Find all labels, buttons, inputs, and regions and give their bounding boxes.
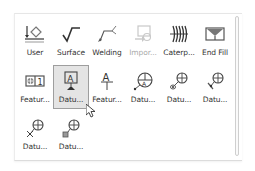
palette-item-datum-target[interactable]: A Datu... (125, 65, 161, 109)
import-icon (133, 24, 153, 44)
feature-control-frame-icon: 1 (25, 71, 45, 91)
datum-target-icon: A (133, 71, 153, 91)
surface-finish-icon (61, 24, 81, 44)
svg-text:A: A (67, 74, 74, 84)
annotation-symbol-palette: User Surface Welding (14, 13, 242, 161)
palette-item-datum-feature[interactable]: A Datu... (53, 65, 89, 109)
palette-item-label: End Fill (197, 48, 233, 57)
scrollbar-thumb[interactable] (235, 16, 239, 156)
svg-text:A: A (103, 72, 110, 83)
datum-target-square-icon (61, 118, 81, 138)
palette-item-welding[interactable]: Welding (89, 18, 125, 62)
user-symbol-icon (25, 24, 45, 44)
palette-item-label: Caterp... (161, 48, 197, 57)
palette-item-datum-target-square[interactable]: Datu... (53, 112, 89, 156)
end-fill-icon (205, 24, 225, 44)
vertical-scrollbar[interactable] (234, 16, 240, 156)
datum-target-line-leader-icon (205, 71, 225, 91)
palette-item-datum-target-point[interactable]: Datu... (17, 112, 53, 156)
palette-item-feature-identifier[interactable]: A Featur... (89, 65, 125, 109)
palette-item-datum-target-circle[interactable]: Datu... (161, 65, 197, 109)
palette-item-label: Featur... (17, 95, 53, 104)
palette-item-label: Datu... (125, 95, 161, 104)
palette-item-label: Datu... (53, 142, 89, 151)
svg-text:A: A (142, 80, 147, 87)
datum-target-circle-leader-icon (169, 71, 189, 91)
datum-target-point-icon (25, 118, 45, 138)
palette-item-label: User (17, 48, 53, 57)
feature-identifier-icon: A (97, 71, 117, 91)
palette-item-end-fill[interactable]: End Fill (197, 18, 233, 62)
palette-item-label: Datu... (17, 142, 53, 151)
palette-item-label: Welding (89, 48, 125, 57)
mouse-pointer-icon (86, 104, 96, 118)
palette-item-feature-control-frame[interactable]: 1 Featur... (17, 65, 53, 109)
palette-item-label: Datu... (161, 95, 197, 104)
palette-item-label: Datu... (53, 95, 89, 104)
palette-item-label: Surface (53, 48, 89, 57)
palette-item-label: Datu... (197, 95, 233, 104)
palette-item-label: Impor... (125, 48, 161, 57)
palette-item-caterpillar[interactable]: Caterp... (161, 18, 197, 62)
caterpillar-icon (169, 24, 189, 44)
palette-item-surface[interactable]: Surface (53, 18, 89, 62)
palette-item-user[interactable]: User (17, 18, 53, 62)
datum-feature-icon: A (61, 71, 81, 91)
svg-text:1: 1 (38, 78, 43, 87)
palette-item-import[interactable]: Impor... (125, 18, 161, 62)
welding-symbol-icon (97, 24, 117, 44)
palette-item-label: Featur... (89, 95, 125, 104)
palette-item-datum-target-line[interactable]: Datu... (197, 65, 233, 109)
